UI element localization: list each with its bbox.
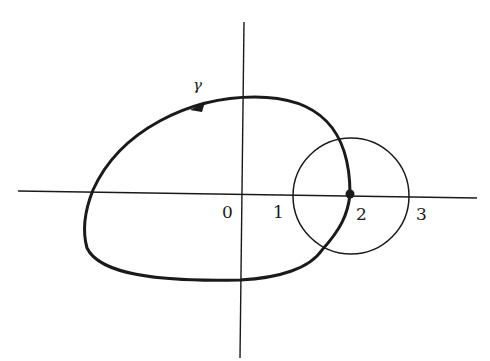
tick-label-0: 0 (222, 204, 233, 221)
tick-label-1: 1 (273, 204, 284, 221)
curve-gamma (85, 97, 350, 280)
y-axis (240, 22, 244, 358)
point-at-2 (346, 190, 355, 199)
gamma-label: γ (193, 78, 202, 93)
diagram-canvas: γ 0 1 2 3 (0, 0, 490, 361)
tick-label-2: 2 (356, 206, 367, 223)
diagram-svg (0, 0, 490, 361)
tick-label-3: 3 (416, 206, 427, 223)
